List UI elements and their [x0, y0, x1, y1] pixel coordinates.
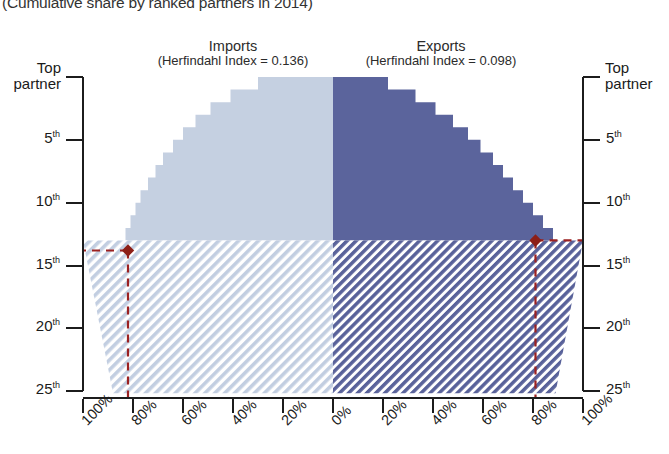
y-axis-label: 5th — [0, 130, 60, 146]
y-axis-label: 20th — [606, 318, 669, 334]
plot-svg — [83, 77, 583, 397]
y-axis-tick — [583, 327, 600, 329]
y-axis-label: 25th — [0, 381, 60, 397]
x-axis-label: 100% — [578, 391, 616, 429]
y-axis-right-line — [582, 77, 584, 391]
imports-solid-area — [126, 77, 334, 240]
exports-solid-area — [333, 77, 553, 240]
y-axis-tick — [583, 139, 600, 141]
y-axis-left-line — [82, 77, 84, 391]
y-axis-end-cap — [583, 390, 600, 392]
y-axis-tick — [66, 265, 83, 267]
imports-title: Imports — [128, 38, 338, 54]
y-axis-tick — [66, 76, 83, 78]
chart-title: (Cumulative share by ranked partners in … — [2, 0, 482, 12]
exports-header: Exports (Herfindahl Index = 0.098) — [330, 38, 552, 69]
y-axis-end-cap — [66, 390, 83, 392]
y-axis-tick — [66, 327, 83, 329]
y-axis-tick — [583, 265, 600, 267]
y-axis-tick — [66, 202, 83, 204]
y-axis-label: 10th — [0, 193, 60, 209]
plot-area — [83, 77, 583, 397]
y-axis-tick — [66, 139, 83, 141]
y-axis-label: 5th — [606, 130, 669, 146]
y-axis-tick — [583, 202, 600, 204]
imports-herfindahl-label: (Herfindahl Index = 0.136) — [128, 54, 338, 69]
y-axis-left-title: Toppartner — [0, 60, 61, 92]
y-axis-label: 15th — [606, 256, 669, 272]
exports-herfindahl-label: (Herfindahl Index = 0.098) — [330, 54, 552, 69]
y-axis-tick — [583, 76, 600, 78]
exports-hatched-area — [333, 240, 583, 393]
y-axis-label: 10th — [606, 193, 669, 209]
imports-header: Imports (Herfindahl Index = 0.136) — [128, 38, 338, 69]
imports-hatched-area — [83, 240, 333, 393]
exports-title: Exports — [330, 38, 552, 54]
chart-figure: (Cumulative share by ranked partners in … — [0, 0, 669, 454]
y-axis-right-title: Toppartner — [605, 60, 669, 92]
y-axis-label: 15th — [0, 256, 60, 272]
y-axis-label: 25th — [606, 381, 669, 397]
y-axis-label: 20th — [0, 318, 60, 334]
